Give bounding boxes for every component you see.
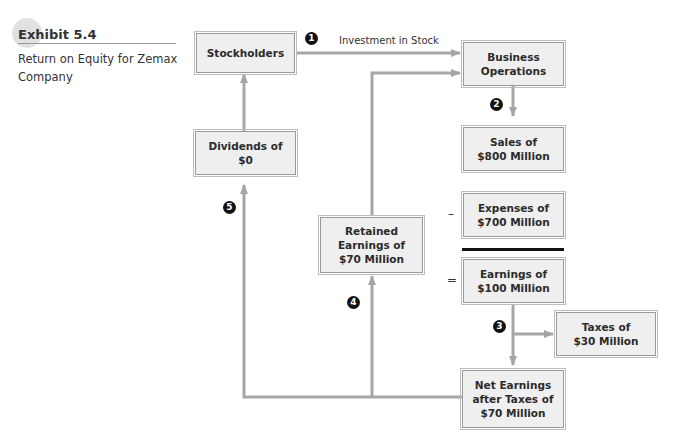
node-retained-earnings-label: Retained Earnings of $70 Million [338, 224, 405, 266]
step-1-marker: 1 [305, 32, 318, 45]
node-taxes-label: Taxes of $30 Million [573, 320, 638, 348]
sum-rule [462, 248, 564, 251]
node-net-earnings-label: Net Earnings after Taxes of $70 Million [472, 378, 553, 420]
node-taxes: Taxes of $30 Million [556, 312, 656, 356]
node-expenses-label: Expenses of $700 Million [477, 201, 549, 229]
minus-operator: – [448, 207, 454, 221]
node-net-earnings: Net Earnings after Taxes of $70 Million [462, 370, 564, 428]
node-earnings: Earnings of $100 Million [463, 259, 564, 303]
investment-label: Investment in Stock [339, 35, 439, 46]
node-stockholders-label: Stockholders [207, 46, 284, 60]
node-business-operations: Business Operations [463, 42, 564, 86]
node-expenses: Expenses of $700 Million [463, 193, 564, 237]
step-3-marker: 3 [493, 320, 506, 333]
equals-operator: = [447, 273, 457, 287]
node-sales-label: Sales of $800 Million [477, 135, 549, 163]
node-dividends: Dividends of $0 [195, 131, 296, 175]
node-earnings-label: Earnings of $100 Million [477, 267, 549, 295]
step-4-marker: 4 [347, 296, 360, 309]
node-retained-earnings: Retained Earnings of $70 Million [320, 217, 423, 273]
node-sales: Sales of $800 Million [463, 127, 564, 171]
step-2-marker: 2 [490, 98, 503, 111]
node-stockholders: Stockholders [196, 33, 295, 73]
step-5-marker: 5 [223, 201, 236, 214]
node-dividends-label: Dividends of $0 [208, 139, 282, 167]
node-business-operations-label: Business Operations [481, 50, 546, 78]
